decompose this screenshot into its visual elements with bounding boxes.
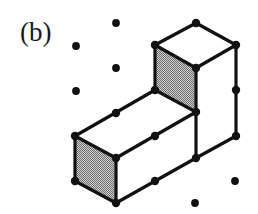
vertex-dot-top-apex [192, 19, 200, 27]
vertex-dot-top-front [192, 64, 200, 72]
lattice-dot-lower-1 [231, 177, 239, 185]
lattice-dot-upper-3 [72, 87, 80, 95]
vertex-dot-top-right [232, 41, 240, 49]
lattice-dot-top-1 [112, 19, 120, 27]
vertex-dot-mid-front [192, 108, 200, 116]
lattice-dot-lower-2 [191, 199, 199, 207]
vertex-dot-top-left [151, 41, 159, 49]
vertex-dot-arm-top-left [71, 132, 79, 140]
vertex-dot-right-bottom [232, 132, 240, 140]
vertex-dot-arm-low-mid [151, 177, 159, 185]
figure-panel-b: (b) [0, 0, 258, 214]
vertex-dot-arm-low-right [192, 154, 200, 162]
vertex-dot-arm-bottom-mid [112, 199, 120, 207]
panel-label: (b) [20, 17, 51, 47]
vertex-dot-mid-left [151, 86, 159, 94]
vertex-dot-arm-bottom-left [71, 177, 79, 185]
vertex-dot-arm-front-mid [151, 132, 159, 140]
lattice-dot-upper-1 [72, 42, 80, 50]
isometric-polycube-drawing: (b) [0, 0, 258, 214]
lattice-dot-upper-2 [112, 64, 120, 72]
vertex-dot-arm-top-mid [112, 109, 120, 117]
vertex-dot-arm-front-left [112, 154, 120, 162]
vertex-dot-right-mid [232, 86, 240, 94]
